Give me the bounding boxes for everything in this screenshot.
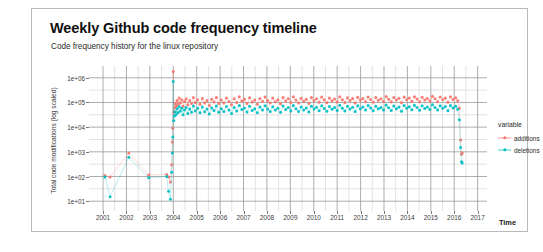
y-tick-mark: [86, 201, 89, 202]
x-tick-mark: [150, 211, 151, 214]
x-tick-label: 2009: [283, 214, 297, 221]
x-tick-label: 2003: [143, 214, 157, 221]
x-tick-label: 2015: [424, 214, 438, 221]
y-tick-label: 1e+04: [67, 124, 85, 131]
x-tick-label: 2017: [471, 214, 485, 221]
chart-screenshot: Weekly Github code frequency timeline Co…: [0, 0, 543, 252]
legend-item-deletions[interactable]: deletions: [498, 144, 543, 156]
x-tick-mark: [244, 211, 245, 214]
y-tick-mark: [86, 78, 89, 79]
legend-marker-icon: [498, 133, 511, 143]
plot-panel: 1e+061e+051e+041e+031e+021e+01 200120022…: [89, 66, 487, 211]
x-tick-label: 2008: [260, 214, 274, 221]
y-axis-title: Total code modifications (log scaled): [50, 76, 57, 206]
x-tick-mark: [173, 211, 174, 214]
x-tick-mark: [290, 211, 291, 214]
legend-item-additions[interactable]: additions: [498, 132, 543, 144]
y-tick-label: 1e+06: [67, 74, 85, 81]
x-tick-mark: [267, 211, 268, 214]
x-tick-mark: [361, 211, 362, 214]
x-tick-mark: [431, 211, 432, 214]
y-tick-mark: [86, 127, 89, 128]
legend-items: additionsdeletions: [498, 132, 543, 156]
chart-card: Weekly Github code frequency timeline Co…: [31, 8, 528, 232]
x-tick-label: 2001: [96, 214, 110, 221]
x-axis-title: Time: [499, 218, 516, 227]
y-tick-mark: [86, 102, 89, 103]
legend: variable additionsdeletions: [498, 121, 543, 156]
legend-title: variable: [498, 121, 543, 128]
x-tick-label: 2006: [213, 214, 227, 221]
x-tick-label: 2005: [190, 214, 204, 221]
y-tick-label: 1e+02: [67, 173, 85, 180]
chart-subtitle: Code frequency history for the linux rep…: [51, 42, 218, 51]
x-tick-label: 2010: [307, 214, 321, 221]
x-tick-mark: [407, 211, 408, 214]
y-tick-mark: [86, 177, 89, 178]
scatter-plot: [89, 66, 487, 211]
x-tick-label: 2014: [400, 214, 414, 221]
x-tick-label: 2016: [447, 214, 461, 221]
x-tick-mark: [384, 211, 385, 214]
x-tick-mark: [454, 211, 455, 214]
x-tick-mark: [103, 211, 104, 214]
x-tick-label: 2007: [236, 214, 250, 221]
x-tick-mark: [126, 211, 127, 214]
y-tick-label: 1e+01: [67, 198, 85, 205]
y-tick-label: 1e+03: [67, 148, 85, 155]
x-tick-mark: [478, 211, 479, 214]
x-tick-label: 2011: [330, 214, 344, 221]
legend-marker-icon: [498, 145, 511, 155]
y-tick-mark: [86, 152, 89, 153]
x-tick-mark: [314, 211, 315, 214]
x-tick-mark: [197, 211, 198, 214]
legend-label: additions: [514, 135, 540, 142]
x-tick-label: 2013: [377, 214, 391, 221]
page-title: Weekly Github code frequency timeline: [50, 20, 317, 36]
x-tick-label: 2004: [166, 214, 180, 221]
x-tick-label: 2002: [119, 214, 133, 221]
y-tick-label: 1e+05: [67, 99, 85, 106]
x-tick-mark: [220, 211, 221, 214]
x-tick-mark: [337, 211, 338, 214]
legend-label: deletions: [514, 147, 540, 154]
x-tick-label: 2012: [353, 214, 367, 221]
